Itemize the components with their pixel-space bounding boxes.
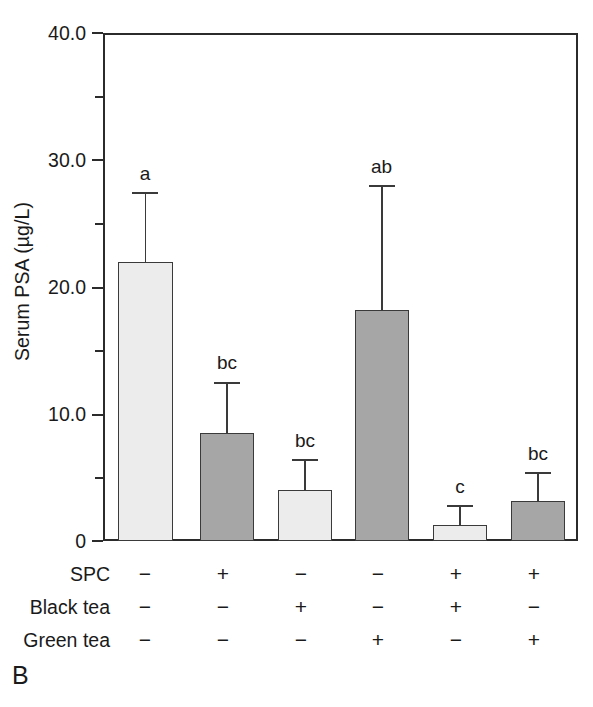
treatment-mark-black-tea-6: −: [514, 596, 554, 617]
treatment-mark-green-tea-1: −: [125, 629, 165, 650]
figure-panel-b: Serum PSA (µg/L) 40.0 30.0 20.0 10.0 0 a…: [0, 0, 593, 707]
treatment-mark-green-tea-4: +: [358, 629, 398, 650]
sig-letter-2: bc: [207, 353, 247, 372]
sig-letter-3: bc: [285, 431, 325, 450]
treatment-mark-green-tea-6: +: [514, 629, 554, 650]
treatment-mark-green-tea-3: −: [281, 629, 321, 650]
treatment-mark-green-tea-5: −: [436, 629, 476, 650]
treatment-row-label-spc: SPC: [0, 565, 110, 585]
y-tick-minor-25: [95, 223, 103, 225]
treatment-mark-spc-4: −: [358, 563, 398, 584]
y-tick-minor-35: [95, 96, 103, 98]
y-tick-minor-5: [95, 477, 103, 479]
treatment-row-label-green-tea: Green tea: [0, 631, 110, 651]
y-tick-major-40: [92, 32, 103, 34]
bar-5: [433, 525, 487, 541]
y-tick-label-40: 40.0: [48, 24, 86, 44]
treatment-mark-black-tea-1: −: [125, 596, 165, 617]
bar-3: [278, 490, 332, 541]
sig-letter-5: c: [440, 477, 480, 496]
y-tick-major-0: [92, 540, 103, 542]
treatment-mark-black-tea-3: +: [281, 596, 321, 617]
treatment-mark-black-tea-5: +: [436, 596, 476, 617]
error-bar-line-1: [145, 192, 147, 262]
y-tick-major-30: [92, 159, 103, 161]
treatment-mark-spc-6: +: [514, 563, 554, 584]
y-tick-minor-15: [95, 350, 103, 352]
bar-2: [200, 433, 254, 541]
y-axis-title: Serum PSA (µg/L): [11, 132, 34, 432]
sig-letter-6: bc: [518, 444, 558, 463]
error-bar-cap-6: [525, 472, 551, 474]
bar-6: [511, 501, 565, 541]
error-bar-cap-4: [369, 185, 395, 187]
panel-label: B: [12, 663, 29, 688]
plot-area: a bc bc ab c bc: [103, 33, 578, 541]
treatment-mark-green-tea-2: −: [203, 629, 243, 650]
y-tick-label-10: 10.0: [48, 405, 86, 425]
treatment-mark-black-tea-2: −: [203, 596, 243, 617]
treatment-mark-spc-1: −: [125, 563, 165, 584]
treatment-mark-spc-2: +: [203, 563, 243, 584]
bar-4: [355, 310, 409, 541]
error-bar-cap-2: [214, 382, 240, 384]
y-tick-label-20: 20.0: [48, 278, 86, 298]
treatment-row-label-black-tea: Black tea: [0, 598, 110, 618]
sig-letter-4: ab: [359, 157, 404, 176]
error-bar-line-3: [304, 459, 306, 490]
error-bar-cap-3: [292, 459, 318, 461]
treatment-mark-black-tea-4: −: [358, 596, 398, 617]
y-tick-major-20: [92, 287, 103, 289]
treatment-mark-spc-5: +: [436, 563, 476, 584]
treatment-mark-spc-3: −: [281, 563, 321, 584]
error-bar-cap-5: [447, 505, 473, 507]
error-bar-line-4: [381, 185, 383, 310]
error-bar-line-5: [459, 505, 461, 525]
y-tick-label-30: 30.0: [48, 151, 86, 171]
error-bar-cap-1: [132, 192, 158, 194]
sig-letter-1: a: [125, 164, 165, 183]
error-bar-line-2: [226, 382, 228, 433]
y-tick-major-10: [92, 414, 103, 416]
y-tick-label-0: 0: [75, 532, 86, 552]
error-bar-line-6: [537, 472, 539, 501]
bar-1: [118, 262, 173, 541]
